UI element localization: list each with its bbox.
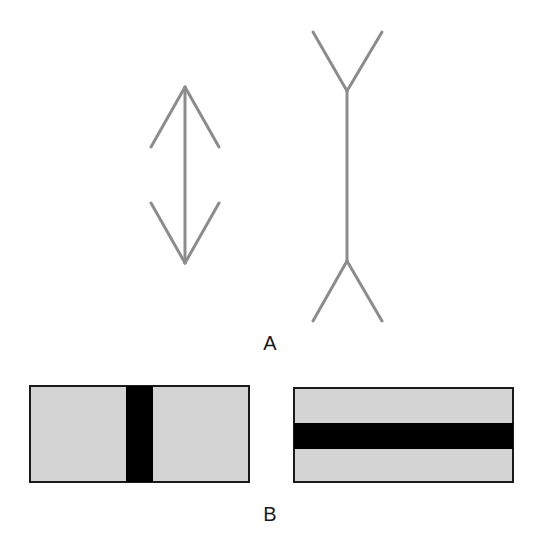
panel-a-right-arrow bbox=[313, 32, 382, 321]
panel-b-right-rect bbox=[294, 388, 513, 482]
panel-b-left-rect bbox=[30, 386, 249, 482]
left-arrow-fin bbox=[151, 87, 185, 147]
vertical-bar bbox=[126, 386, 153, 482]
panel-b-label: B bbox=[263, 503, 276, 526]
left-arrow-fin bbox=[151, 203, 185, 263]
illusion-diagram bbox=[0, 0, 558, 541]
horizontal-bar bbox=[294, 423, 513, 449]
right-arrow-fin bbox=[347, 32, 382, 91]
right-arrow-fin bbox=[313, 261, 347, 321]
panel-a-label: A bbox=[263, 332, 276, 355]
panel-a-left-arrow bbox=[151, 87, 219, 263]
left-arrow-fin bbox=[185, 203, 219, 263]
right-arrow-fin bbox=[347, 261, 382, 321]
right-arrow-fin bbox=[313, 32, 347, 91]
left-arrow-fin bbox=[185, 87, 219, 147]
